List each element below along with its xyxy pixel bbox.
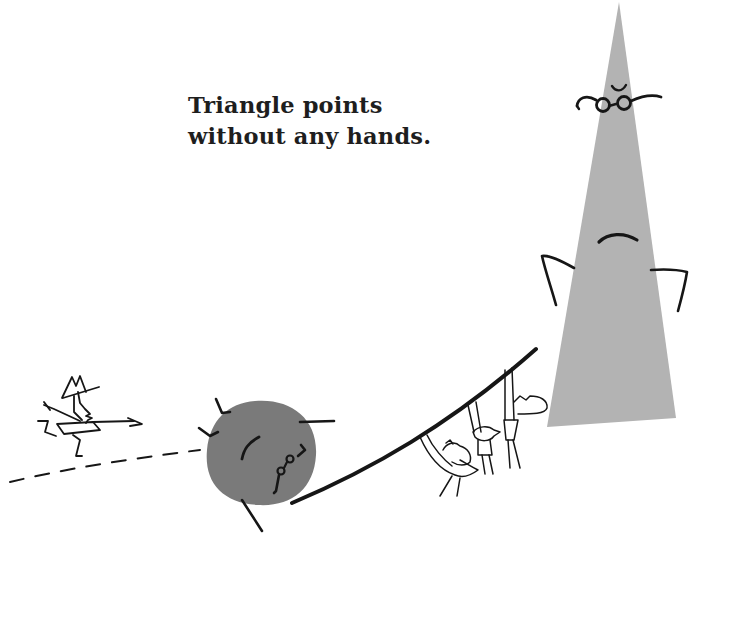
curved-line	[292, 349, 536, 503]
illustration-page: Triangle points without any hands.	[0, 0, 731, 621]
illustration-art	[0, 0, 731, 621]
hanging-figures	[420, 368, 547, 496]
circle-character	[199, 399, 334, 531]
triangle-body	[547, 2, 676, 427]
running-man	[38, 376, 142, 456]
dashed-path	[10, 450, 200, 482]
triangle-character	[542, 2, 687, 427]
